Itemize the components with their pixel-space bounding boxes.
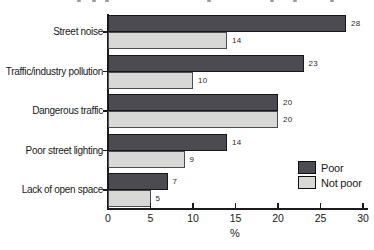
x-tick	[277, 203, 279, 208]
legend-swatch	[298, 176, 316, 189]
y-tick	[103, 71, 108, 73]
x-tick-label: 15	[226, 212, 246, 224]
poor-bar	[108, 173, 168, 190]
x-tick-label: 20	[268, 212, 288, 224]
text-fragment	[92, 0, 96, 2]
not-poor-bar	[108, 111, 278, 128]
category-label: Dangerous traffic	[32, 105, 103, 116]
x-tick-label: 0	[98, 212, 118, 224]
y-tick	[103, 31, 108, 33]
text-fragment	[330, 0, 334, 2]
x-tick	[362, 203, 364, 208]
value-label: 20	[283, 98, 292, 107]
x-tick	[150, 203, 152, 208]
y-tick	[103, 189, 108, 191]
not-poor-bar	[108, 72, 193, 89]
category-label: Poor street lighting	[26, 145, 103, 156]
value-label: 20	[283, 115, 292, 124]
legend-label: Not poor	[321, 177, 362, 189]
legend-row: Not poor	[298, 176, 362, 189]
value-label: 10	[198, 76, 207, 85]
value-label: 7	[173, 177, 178, 186]
text-fragment	[270, 0, 274, 2]
x-tick	[235, 203, 237, 208]
y-tick	[103, 110, 108, 112]
value-label: 23	[309, 59, 318, 68]
x-tick-label: 5	[141, 212, 161, 224]
poor-bar	[108, 55, 304, 72]
poor-bar	[108, 134, 227, 151]
text-fragment	[293, 0, 297, 2]
text-fragment	[105, 0, 109, 2]
x-tick-label: 10	[183, 212, 203, 224]
y-tick	[103, 150, 108, 152]
legend-swatch	[298, 161, 316, 174]
category-label: Traffic/industry pollution	[6, 66, 103, 77]
value-label: 9	[190, 155, 195, 164]
not-poor-bar	[108, 32, 227, 49]
x-axis-line	[107, 208, 368, 210]
legend-label: Poor	[321, 162, 343, 174]
x-tick-label: 30	[353, 212, 373, 224]
category-label: Lack of open space	[22, 184, 103, 195]
text-fragment	[77, 0, 81, 2]
x-tick	[320, 203, 322, 208]
value-label: 14	[232, 138, 241, 147]
bar-chart-figure: Street noise2814Traffic/industry polluti…	[0, 0, 374, 250]
value-label: 28	[351, 19, 360, 28]
category-label: Street noise	[53, 26, 103, 37]
legend-row: Poor	[298, 161, 362, 174]
poor-bar	[108, 15, 346, 32]
poor-bar	[108, 94, 278, 111]
legend: PoorNot poor	[298, 161, 362, 189]
value-label: 5	[156, 194, 161, 203]
text-fragment	[207, 0, 211, 2]
x-tick	[192, 203, 194, 208]
not-poor-bar	[108, 190, 151, 207]
not-poor-bar	[108, 151, 185, 168]
x-tick-label: 25	[311, 212, 331, 224]
x-axis-title: %	[223, 227, 247, 239]
value-label: 14	[232, 36, 241, 45]
